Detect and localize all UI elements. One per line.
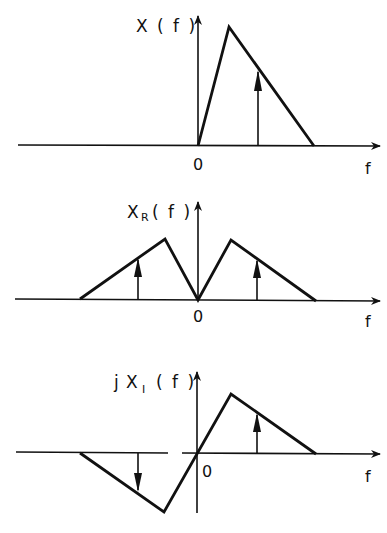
zero-label: 0: [202, 462, 212, 481]
y-axis-label: X ( f ): [136, 16, 197, 36]
f-axis-right: [182, 453, 380, 454]
panel-spectrum: X ( f ) 0 f: [18, 16, 380, 178]
y-axis-label: X R ( f ): [127, 202, 192, 224]
label-tail: ( f ): [152, 202, 192, 222]
panel-real-part: X R ( f ) 0 f: [15, 202, 380, 331]
f-axis-label: f: [365, 467, 371, 486]
label-main: X: [126, 372, 140, 392]
zero-label: 0: [193, 307, 203, 326]
f-axis-left: [16, 452, 168, 453]
panel-imag-part: j X I ( f ) 0 f: [16, 372, 380, 513]
y-axis-label: j X I ( f ): [113, 372, 196, 396]
label-tail: ( f ): [156, 372, 196, 392]
label-main: X: [127, 202, 141, 222]
label-subscript: I: [142, 383, 145, 396]
impulse-down-arrowhead-icon: [134, 473, 142, 492]
f-axis-label: f: [365, 159, 371, 178]
label-subscript: R: [141, 211, 149, 224]
zero-label: 0: [193, 155, 203, 174]
label-prefix: j: [113, 372, 121, 392]
f-axis-label: f: [365, 312, 371, 331]
spectrum-diagram: X ( f ) 0 f X R ( f ) 0 f j X I: [0, 0, 387, 533]
